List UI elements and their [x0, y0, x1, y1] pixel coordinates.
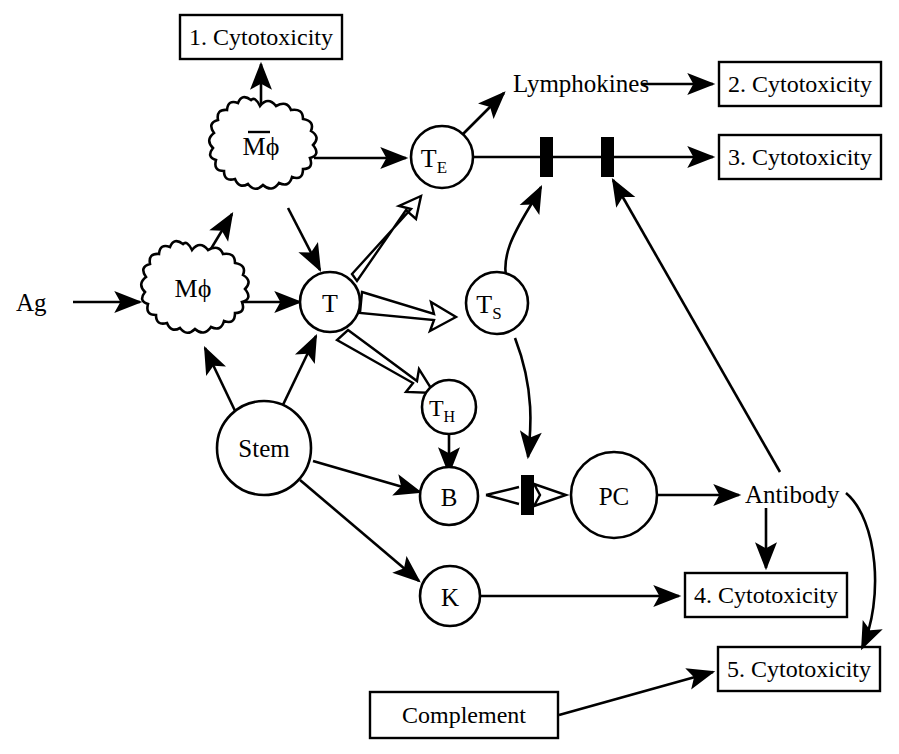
node-activated-macrophage: Mϕ	[209, 97, 316, 189]
macrophage-label: Mϕ	[175, 274, 212, 303]
edge-stem-to-macrophage	[205, 348, 237, 415]
inhibition-bar-b-pc	[521, 475, 534, 515]
edge-antibody-to-box5	[846, 493, 875, 648]
t-cell-label: T	[322, 289, 338, 318]
stem-cell-label: Stem	[238, 435, 290, 462]
inhibition-bar-te-2	[601, 137, 614, 177]
edge-te-to-lymphokines	[458, 93, 504, 139]
edge-stem-to-b	[313, 461, 420, 492]
edge-stem-to-t	[281, 336, 316, 409]
box-5-cytotoxicity: 5. Cytotoxicity	[718, 647, 880, 691]
complement-label: Complement	[402, 702, 526, 728]
edge-stem-to-k	[300, 480, 419, 581]
node-pc-cell: PC	[571, 452, 657, 538]
edge-b-to-pc-open-arrow-right	[534, 484, 566, 506]
box-3-label: 3. Cytotoxicity	[728, 144, 872, 170]
edge-b-to-pc-open-arrow-left	[486, 487, 519, 504]
node-ag: Ag	[16, 289, 47, 316]
box-complement: Complement	[370, 692, 558, 738]
box-1-label: 1. Cytotoxicity	[189, 24, 333, 50]
node-th-cell: TH	[422, 380, 476, 434]
ts-cell-sub: S	[492, 304, 501, 323]
node-antibody: Antibody	[745, 481, 840, 508]
node-k-cell: K	[420, 566, 480, 626]
edge-complement-to-box5	[559, 672, 713, 715]
edge-t-to-ts-open-arrow	[360, 292, 456, 331]
node-te-cell: TE	[411, 126, 473, 188]
box-1-cytotoxicity: 1. Cytotoxicity	[180, 15, 342, 59]
b-cell-label: B	[441, 484, 458, 511]
box-5-label: 5. Cytotoxicity	[727, 656, 871, 682]
node-t-cell: T	[300, 272, 360, 332]
edge-activated-macrophage-to-t	[288, 208, 320, 270]
edge-ts-to-bar1	[505, 187, 541, 285]
box-2-label: 2. Cytotoxicity	[728, 71, 872, 97]
th-cell-sub: H	[444, 408, 456, 425]
node-ts-cell: TS	[466, 272, 528, 334]
edge-antibody-to-bar2	[613, 180, 780, 472]
immune-pathway-diagram: 1. Cytotoxicity 2. Cytotoxicity 3. Cytot…	[0, 0, 899, 754]
edge-t-to-th-open-arrow	[337, 330, 434, 393]
te-cell-main: T	[421, 144, 437, 173]
k-cell-label: K	[441, 584, 459, 611]
node-stem-cell: Stem	[217, 401, 311, 495]
box-2-cytotoxicity: 2. Cytotoxicity	[719, 62, 881, 106]
node-b-cell: B	[420, 467, 478, 525]
te-cell-sub: E	[437, 158, 447, 177]
box-4-cytotoxicity: 4. Cytotoxicity	[685, 573, 847, 617]
th-cell-main: T	[429, 395, 444, 421]
box-4-label: 4. Cytotoxicity	[694, 582, 838, 608]
diagram-canvas: 1. Cytotoxicity 2. Cytotoxicity 3. Cytot…	[0, 0, 899, 754]
activated-macrophage-label: Mϕ	[243, 132, 280, 161]
box-3-cytotoxicity: 3. Cytotoxicity	[719, 135, 881, 179]
pc-cell-label: PC	[599, 483, 630, 510]
inhibition-bar-te-1	[540, 137, 553, 177]
ts-cell-main: T	[476, 290, 492, 319]
edge-ts-to-bar-b-pc	[515, 338, 530, 457]
node-lymphokines: Lymphokines	[513, 70, 649, 97]
edge-t-to-te-open-arrow	[352, 196, 421, 281]
node-macrophage: Mϕ	[141, 241, 248, 333]
